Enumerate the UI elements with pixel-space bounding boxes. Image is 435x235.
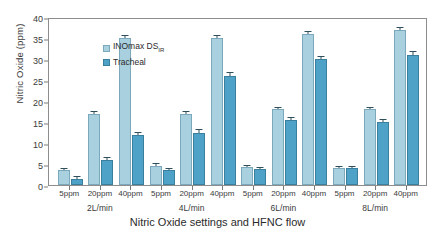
error-bar	[168, 169, 169, 171]
error-bar-cap	[196, 129, 203, 130]
bar-inomax-ds	[241, 167, 253, 185]
error-bar-cap	[379, 119, 386, 120]
bar-tracheal	[346, 168, 358, 185]
x-axis-tick-label: 5ppm	[151, 189, 171, 198]
bar-inomax-ds	[180, 114, 192, 185]
error-bar-cap	[134, 132, 141, 133]
x-axis-tick-label: 40ppm	[393, 189, 417, 198]
error-bar-cap	[152, 163, 159, 164]
error-bar	[124, 36, 125, 38]
error-bar	[400, 28, 401, 30]
error-bar-cap	[397, 27, 404, 28]
error-bar-cap	[91, 111, 98, 112]
bar-chart-figure: Nitric Oxide (ppm) 0510152025303540 INOm…	[0, 0, 435, 235]
error-bar	[63, 169, 64, 170]
x-axis-tick-label: 40ppm	[210, 189, 234, 198]
error-bar	[260, 168, 261, 169]
x-axis-tick-label: 20ppm	[88, 189, 112, 198]
y-axis-tick-mark	[44, 61, 48, 62]
error-bar-cap	[104, 157, 111, 158]
legend-swatch-icon	[103, 59, 110, 66]
bar-inomax-ds	[272, 109, 284, 185]
error-bar	[321, 57, 322, 59]
legend-item: INOmax DSIR	[103, 41, 164, 55]
error-bar-cap	[183, 111, 190, 112]
bar-tracheal	[315, 59, 327, 185]
bar-inomax-ds	[302, 34, 314, 185]
error-bar-cap	[213, 35, 220, 36]
legend-label: INOmax DSIR	[113, 41, 164, 55]
bar-tracheal	[71, 179, 83, 185]
y-axis-tick-mark	[44, 103, 48, 104]
error-bar-cap	[73, 176, 80, 177]
error-bar	[277, 108, 278, 109]
legend-label: Tracheal	[113, 57, 146, 68]
error-bar	[199, 130, 200, 132]
error-bar-cap	[121, 35, 128, 36]
bar-tracheal	[163, 170, 175, 185]
error-bar	[339, 167, 340, 168]
bar-tracheal	[101, 160, 113, 185]
bar-tracheal	[132, 135, 144, 185]
y-axis-title: Nitric Oxide (ppm)	[14, 0, 25, 129]
x-axis-tick-label: 20ppm	[179, 189, 203, 198]
error-bar	[369, 108, 370, 109]
x-axis-tick-label: 20ppm	[271, 189, 295, 198]
y-axis-tick-mark	[44, 124, 48, 125]
x-axis-group-label: 8L/min	[362, 203, 388, 213]
legend-swatch-icon	[103, 45, 110, 52]
y-axis-tick-mark	[44, 166, 48, 167]
error-bar-cap	[366, 107, 373, 108]
x-axis-group-label: 2L/min	[87, 203, 113, 213]
error-bar	[216, 36, 217, 38]
x-axis-tick-label: 5ppm	[335, 189, 355, 198]
y-axis-tick-mark	[44, 19, 48, 20]
error-bar	[247, 166, 248, 167]
y-axis-tick-mark	[44, 82, 48, 83]
error-bar-cap	[257, 167, 264, 168]
error-bar	[137, 133, 138, 135]
y-axis-tick-mark	[44, 145, 48, 146]
x-axis-tick-label: 20ppm	[363, 189, 387, 198]
bar-tracheal	[285, 120, 297, 185]
error-bar	[290, 118, 291, 120]
x-axis-tick-label: 40ppm	[118, 189, 142, 198]
legend-item: Tracheal	[103, 57, 164, 68]
bar-inomax-ds	[211, 38, 223, 185]
error-bar-cap	[349, 166, 356, 167]
error-bar-cap	[244, 165, 251, 166]
bar-inomax-ds	[333, 168, 345, 185]
y-axis-tick-mark	[44, 40, 48, 41]
x-axis-title: Nitric Oxide settings and HFNC flow	[0, 216, 435, 228]
error-bar	[186, 112, 187, 113]
y-axis-tick-mark	[44, 187, 48, 188]
error-bar	[352, 167, 353, 168]
error-bar-cap	[226, 72, 233, 73]
x-axis-tick-label: 5ppm	[243, 189, 263, 198]
bar-tracheal	[377, 122, 389, 185]
error-bar-cap	[165, 168, 172, 169]
error-bar-cap	[410, 51, 417, 52]
bar-tracheal	[407, 55, 419, 185]
bar-inomax-ds	[58, 170, 70, 185]
error-bar	[413, 52, 414, 55]
error-bar-cap	[318, 56, 325, 57]
bar-tracheal	[254, 169, 266, 185]
error-bar-cap	[274, 107, 281, 108]
error-bar	[107, 158, 108, 160]
bar-inomax-ds	[150, 166, 162, 185]
bar-inomax-ds	[88, 114, 100, 185]
error-bar	[229, 73, 230, 76]
bar-inomax-ds	[394, 30, 406, 185]
error-bar-cap	[287, 117, 294, 118]
error-bar	[308, 32, 309, 34]
x-axis-group-label: 4L/min	[179, 203, 205, 213]
error-bar-cap	[305, 31, 312, 32]
chart-legend: INOmax DSIRTracheal	[103, 41, 164, 70]
x-axis-tick-label: 40ppm	[302, 189, 326, 198]
x-axis-group-label: 6L/min	[271, 203, 297, 213]
error-bar	[94, 112, 95, 113]
error-bar	[382, 120, 383, 122]
error-bar-cap	[60, 168, 67, 169]
bar-inomax-ds	[364, 109, 376, 185]
